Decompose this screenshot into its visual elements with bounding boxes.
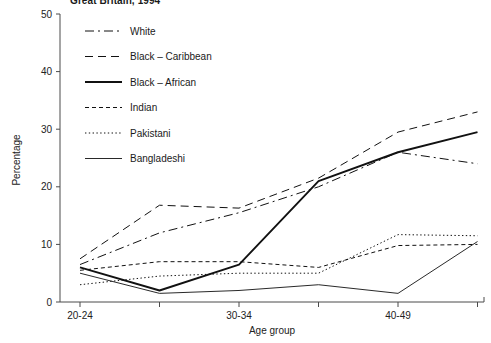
y-tick-label: 50 — [41, 9, 53, 20]
series-line-indian — [80, 244, 478, 270]
x-tick-label: 30-34 — [226, 310, 252, 321]
series-layer — [80, 112, 478, 293]
line-chart-canvas: 01020304050 20-2430-3440-49 WhiteBlack –… — [0, 0, 491, 343]
y-tick-label: 40 — [41, 66, 53, 77]
y-tick-label: 30 — [41, 124, 53, 135]
x-tick-label: 20-24 — [67, 310, 93, 321]
series-line-pakistani — [80, 235, 478, 285]
y-tick-label: 10 — [41, 239, 53, 250]
y-axis-title: Percentage — [11, 134, 22, 186]
y-tick-label: 20 — [41, 181, 53, 192]
legend-label: Bangladeshi — [130, 153, 185, 164]
legend-label: Black – Caribbean — [130, 51, 212, 62]
x-axis: 20-2430-3440-49 — [60, 297, 484, 321]
chart-legend: WhiteBlack – CaribbeanBlack – AfricanInd… — [85, 26, 212, 165]
legend-label: Pakistani — [130, 128, 171, 139]
legend-label: Indian — [130, 102, 157, 113]
x-tick-label: 40-49 — [385, 310, 411, 321]
legend-label: White — [130, 26, 156, 37]
series-line-white — [80, 152, 478, 264]
x-axis-title: Age group — [249, 325, 296, 336]
y-tick-label: 0 — [46, 297, 52, 308]
legend-label: Black – African — [130, 77, 196, 88]
chart-page: Great Britain, 1994 01020304050 20-2430-… — [0, 0, 491, 343]
y-axis: 01020304050 — [41, 9, 60, 308]
